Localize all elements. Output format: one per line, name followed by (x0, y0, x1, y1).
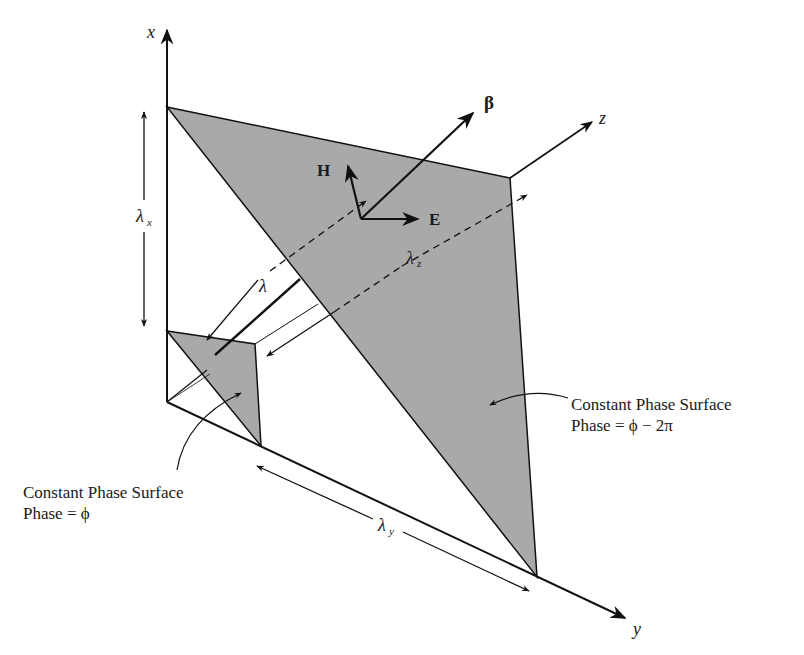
lambda-x-label: λ x (135, 206, 152, 228)
far-surface-caption: Constant Phase Surface Phase = ϕ − 2π (571, 395, 732, 435)
z-axis-label: z (598, 108, 606, 128)
propagation-line (215, 279, 300, 355)
plane-wave-diagram: x y z β H E λ x λ λ z λ y Constant Phase… (0, 0, 804, 655)
svg-text:λ: λ (377, 515, 386, 535)
near-surface-caption: Constant Phase Surface Phase = ϕ (23, 483, 184, 523)
y-axis (167, 402, 625, 618)
svg-text:Phase = ϕ: Phase = ϕ (23, 504, 90, 523)
svg-text:x: x (146, 216, 152, 228)
x-axis-label: x (146, 22, 155, 42)
svg-text:z: z (416, 257, 422, 269)
lambda-y-arrow-left (257, 466, 373, 519)
constant-phase-surface-near (167, 331, 261, 446)
svg-text:λ: λ (258, 276, 267, 296)
beta-label: β (484, 92, 494, 113)
svg-text:Constant Phase Surface: Constant Phase Surface (571, 395, 732, 414)
svg-text:λ: λ (405, 248, 414, 268)
svg-text:y: y (388, 525, 394, 537)
near-edge-x (167, 370, 207, 402)
svg-text:λ: λ (135, 206, 144, 226)
e-label: E (429, 210, 440, 229)
h-label: H (317, 161, 330, 180)
lambda-z-arrow-solid (267, 312, 334, 356)
lambda-arrow-solid (207, 280, 258, 340)
near-edge-z (167, 374, 210, 402)
lambda-y-label: λ y (377, 515, 394, 537)
lambda-label: λ (258, 276, 267, 296)
y-axis-label: y (631, 619, 641, 639)
svg-text:Constant Phase Surface: Constant Phase Surface (23, 483, 184, 502)
z-axis (510, 122, 592, 178)
svg-text:Phase = ϕ − 2π: Phase = ϕ − 2π (571, 416, 673, 435)
